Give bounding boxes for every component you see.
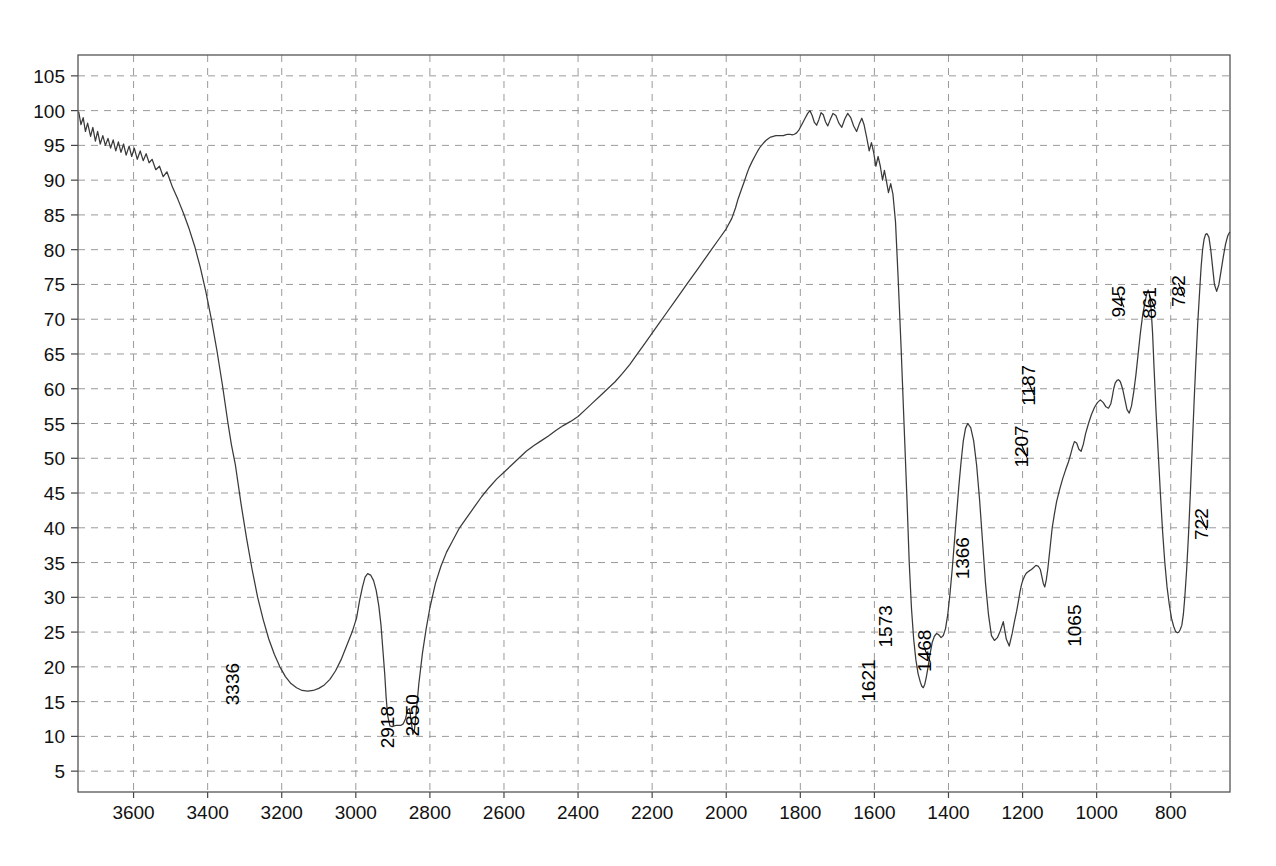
y-tick-label: 60 xyxy=(44,379,65,400)
x-tick-label: 3400 xyxy=(187,802,229,823)
y-tick-label: 10 xyxy=(44,726,65,747)
y-tick-label: 45 xyxy=(44,483,65,504)
peak-label-1187: 1187 xyxy=(1018,365,1039,406)
peak-label-2850: 2850 xyxy=(402,694,423,736)
x-tick-label: 2000 xyxy=(705,802,747,823)
y-tick-label: 75 xyxy=(44,274,65,295)
spectrum-page: 3600340032003000280026002400220020001800… xyxy=(0,0,1276,866)
x-tick-label: 3000 xyxy=(335,802,377,823)
y-tick-label: 95 xyxy=(44,135,65,156)
peak-label-782: 782 xyxy=(1168,275,1189,307)
peak-label-1366: 1366 xyxy=(952,537,973,579)
y-tick-label: 100 xyxy=(33,101,65,122)
y-tick-label: 85 xyxy=(44,205,65,226)
peak-label-1065: 1065 xyxy=(1064,604,1085,646)
peak-label-861: 861 xyxy=(1139,287,1160,319)
y-tick-label: 55 xyxy=(44,414,65,435)
x-tick-label: 1600 xyxy=(853,802,895,823)
x-tick-label: 2800 xyxy=(409,802,451,823)
x-tick-label: 2600 xyxy=(483,802,525,823)
y-tick-label: 30 xyxy=(44,587,65,608)
peak-label-1621: 1621 xyxy=(858,659,879,701)
y-tick-label: 90 xyxy=(44,170,65,191)
x-tick-label: 800 xyxy=(1155,802,1187,823)
x-tick-label: 1400 xyxy=(927,802,969,823)
x-tick-label: 1000 xyxy=(1076,802,1118,823)
x-tick-label: 1800 xyxy=(779,802,821,823)
y-tick-label: 15 xyxy=(44,692,65,713)
y-tick-label: 105 xyxy=(33,66,65,87)
peak-label-1468: 1468 xyxy=(914,630,935,672)
x-tick-label: 3200 xyxy=(261,802,303,823)
y-tick-label: 5 xyxy=(54,761,65,782)
y-tick-label: 25 xyxy=(44,622,65,643)
y-tick-label: 20 xyxy=(44,657,65,678)
y-tick-label: 40 xyxy=(44,518,65,539)
peak-label-2918: 2918 xyxy=(377,706,398,748)
peak-label-945: 945 xyxy=(1108,286,1129,318)
y-tick-label: 35 xyxy=(44,553,65,574)
x-tick-label: 3600 xyxy=(112,802,154,823)
y-tick-label: 80 xyxy=(44,240,65,261)
x-tick-label: 2400 xyxy=(557,802,599,823)
x-axis-tick-labels: 3600340032003000280026002400220020001800… xyxy=(112,802,1186,823)
ir-spectrum-chart: 3600340032003000280026002400220020001800… xyxy=(0,0,1276,866)
peak-label-3336: 3336 xyxy=(222,663,243,705)
x-tick-label: 2200 xyxy=(631,802,673,823)
y-tick-label: 65 xyxy=(44,344,65,365)
x-tick-label: 1200 xyxy=(1001,802,1043,823)
y-tick-label: 50 xyxy=(44,448,65,469)
peak-label-722: 722 xyxy=(1191,508,1212,540)
peak-label-1207: 1207 xyxy=(1011,425,1032,467)
y-tick-label: 70 xyxy=(44,309,65,330)
peak-label-1573: 1573 xyxy=(875,605,896,647)
